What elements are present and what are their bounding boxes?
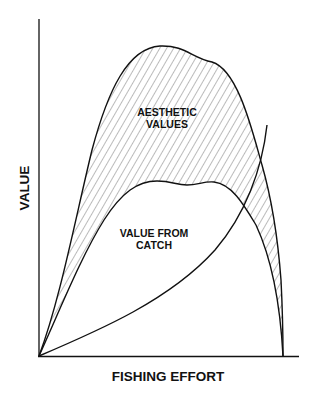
y-axis-label: VALUE [17,166,32,211]
fishing-effort-chart: AESTHETIC VALUES VALUE FROM CATCH FISHIN… [0,0,313,397]
aesthetic-label-line1: AESTHETIC [137,106,197,118]
catch-label-line2: CATCH [136,239,172,251]
x-axis-label: FISHING EFFORT [112,369,225,384]
aesthetic-label-line2: VALUES [146,118,188,130]
catch-label-line1: VALUE FROM [120,227,189,239]
